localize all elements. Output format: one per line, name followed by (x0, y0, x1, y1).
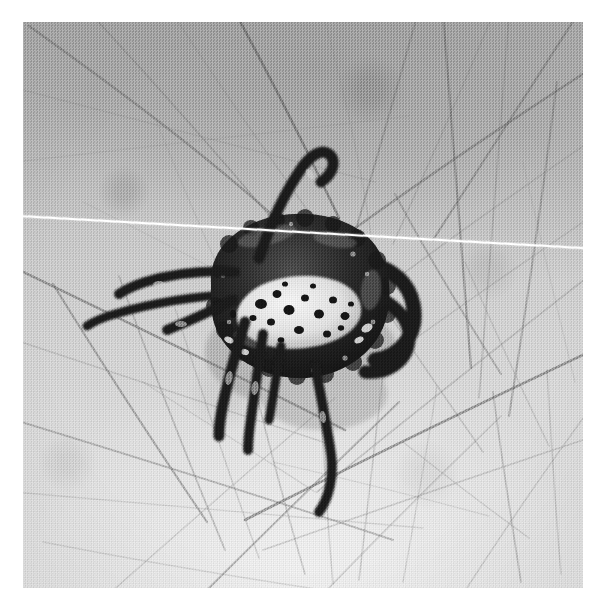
halftone-dither (23, 22, 583, 588)
screenshot-root: Close-up photograph of a tick attached t… (0, 0, 615, 602)
photograph (23, 22, 583, 588)
